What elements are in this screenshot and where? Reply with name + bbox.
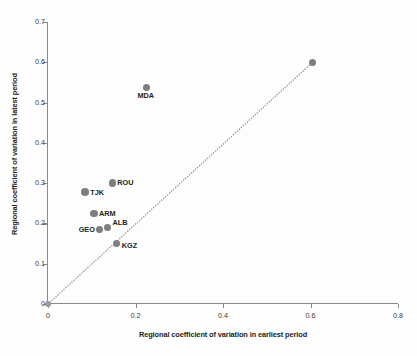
data-point-label-tjk: TJK	[90, 189, 104, 197]
y-tick-label: 0.3	[5, 179, 45, 187]
plot-area: 00.10.20.30.40.50.60.7 00.20.40.60.8 TJK…	[48, 22, 398, 303]
data-point-label-kgz: KGZ	[122, 242, 137, 250]
y-tick-label: 0	[5, 300, 45, 308]
data-point-label-rou: ROU	[117, 179, 133, 187]
x-tick-label: 0.6	[291, 311, 331, 320]
data-point-mda[interactable]	[143, 84, 151, 92]
y-tick-label: 0.6	[5, 58, 45, 66]
x-tick-label: 0.4	[203, 311, 243, 320]
x-tick-label: 0	[28, 311, 68, 320]
data-point-rou[interactable]	[109, 179, 117, 187]
diagonal-reference-line	[48, 22, 398, 304]
data-point[interactable]	[45, 301, 51, 307]
data-point-label-arm: ARM	[99, 210, 116, 218]
y-tick-label: 0.7	[5, 18, 45, 26]
y-tick-label: 0.2	[5, 219, 45, 227]
x-tick-mark	[136, 304, 137, 308]
data-point-arm[interactable]	[90, 210, 98, 218]
x-axis-title: Regional coefficient of variation in ear…	[48, 330, 398, 339]
data-point-label-alb: ALB	[113, 219, 128, 227]
data-point-label-mda: MDA	[137, 92, 154, 100]
x-tick-label: 0.8	[378, 311, 417, 320]
x-tick-label: 0.2	[116, 311, 156, 320]
x-tick-mark	[223, 304, 224, 308]
scatter-chart-figure: Regional coefficient of variation in lat…	[0, 0, 417, 356]
x-tick-mark	[311, 304, 312, 308]
x-tick-mark	[398, 304, 399, 308]
data-point-label-geo: GEO	[79, 226, 95, 234]
y-tick-label: 0.5	[5, 99, 45, 107]
y-tick-label: 0.4	[5, 139, 45, 147]
data-point-tjk[interactable]	[81, 188, 89, 196]
y-tick-label: 0.1	[5, 260, 45, 268]
